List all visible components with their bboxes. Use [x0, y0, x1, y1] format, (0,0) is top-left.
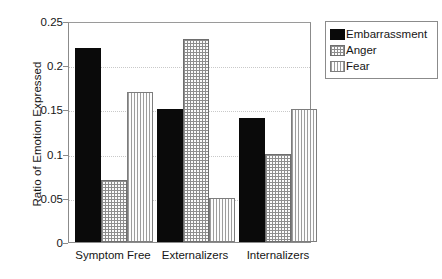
- legend-swatch-embarrassment-icon: [330, 29, 345, 40]
- legend-swatch-anger-icon: [330, 45, 345, 56]
- y-tick-label-0.1: 0.1: [3, 149, 63, 161]
- x-tick-label-symptom-free: Symptom Free: [75, 249, 150, 261]
- bar-internalizers-embarrassment: [239, 118, 265, 242]
- bar-internalizers-anger: [265, 154, 291, 242]
- x-tick-label-externalizers: Externalizers: [162, 249, 228, 261]
- bar-externalizers-anger: [183, 39, 209, 242]
- legend-item-embarrassment: Embarrassment: [330, 26, 433, 42]
- y-tick-label-0.05: 0.05: [3, 193, 63, 205]
- legend-label-embarrassment: Embarrassment: [346, 28, 427, 40]
- y-tick-mark-0: [63, 243, 68, 244]
- legend-item-anger: Anger: [330, 42, 433, 58]
- x-tick-label-internalizers: Internalizers: [247, 249, 310, 261]
- legend-swatch-fear-icon: [330, 61, 345, 72]
- legend-label-anger: Anger: [346, 44, 377, 56]
- y-tick-label-0.2: 0.2: [3, 60, 63, 72]
- bar-internalizers-fear: [291, 109, 317, 242]
- legend-label-fear: Fear: [346, 60, 370, 72]
- y-tick-label-0.15: 0.15: [3, 104, 63, 116]
- bar-chart-figure: Ratio of Emotion Expressed 0.25 0.2 0.15…: [0, 0, 442, 279]
- y-tick-label-0: 0: [3, 237, 63, 249]
- legend-item-fear: Fear: [330, 58, 433, 74]
- bar-externalizers-embarrassment: [157, 109, 183, 242]
- bar-symptom-free-anger: [101, 180, 127, 242]
- y-tick-label-0.25: 0.25: [3, 16, 63, 28]
- bar-symptom-free-fear: [127, 92, 153, 242]
- bar-externalizers-fear: [209, 198, 235, 242]
- plot-area: [68, 22, 311, 243]
- chart-legend: Embarrassment Anger Fear: [325, 21, 438, 79]
- bar-symptom-free-embarrassment: [75, 48, 101, 243]
